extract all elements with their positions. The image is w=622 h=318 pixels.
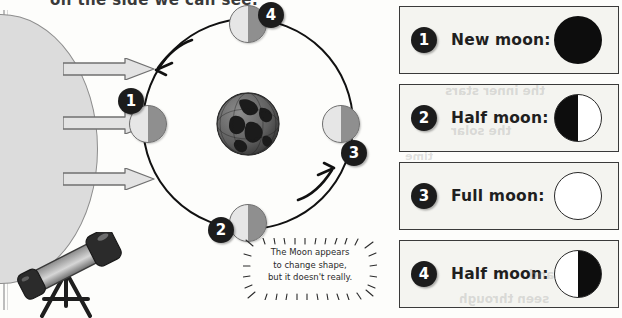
legend-row-4[interactable]: 4 Half moon: (399, 240, 619, 308)
worksheet-page: on the side we can see. (0, 0, 622, 318)
legend-row-4-badge: 4 (411, 261, 437, 287)
moon-shape-callout-text: The Moon appears to change shape, but it… (255, 246, 365, 284)
earth-globe (216, 92, 280, 156)
moon-position-2-badge: 2 (208, 217, 234, 243)
legend-row-2[interactable]: 2 Half moon: (399, 84, 619, 152)
orbit-direction-arrow-upper-left (146, 38, 194, 82)
legend-row-2-label: Half moon: (451, 109, 554, 127)
moon-phase-legend: 1 New moon: 2 Half moon: 3 Full moon: 4 … (399, 2, 619, 316)
phase-icon-new-moon (554, 16, 602, 64)
phase-icon-full-moon (554, 172, 602, 220)
telescope-illustration (8, 232, 124, 318)
sunlight-ray-bottom (63, 168, 155, 190)
legend-row-1[interactable]: 1 New moon: (399, 6, 619, 74)
legend-row-2-badge: 2 (411, 105, 437, 131)
legend-row-4-label: Half moon: (451, 265, 554, 283)
legend-row-3-badge: 3 (411, 183, 437, 209)
moon-position-2 (229, 204, 267, 242)
legend-row-1-label: New moon: (451, 31, 554, 49)
moon-position-3 (322, 105, 360, 143)
moon-shape-callout: The Moon appears to change shape, but it… (243, 238, 377, 300)
orbit-direction-arrow-lower-right (296, 160, 344, 206)
legend-row-1-badge: 1 (411, 27, 437, 53)
moon-position-1-badge: 1 (118, 88, 144, 114)
moon-phases-diagram: 1 2 3 4 (0, 0, 395, 318)
sunlight-ray-top (63, 58, 155, 80)
phase-icon-half-moon-right (554, 250, 602, 298)
moon-position-4-badge: 4 (258, 2, 284, 28)
callout-line-3: but it doesn't really. (255, 271, 365, 284)
callout-line-2: to change shape, (255, 259, 365, 272)
legend-row-3-label: Full moon: (451, 187, 554, 205)
legend-row-3[interactable]: 3 Full moon: (399, 162, 619, 230)
callout-line-1: The Moon appears (255, 246, 365, 259)
phase-icon-half-moon-left (554, 94, 602, 142)
moon-position-3-badge: 3 (341, 140, 367, 166)
